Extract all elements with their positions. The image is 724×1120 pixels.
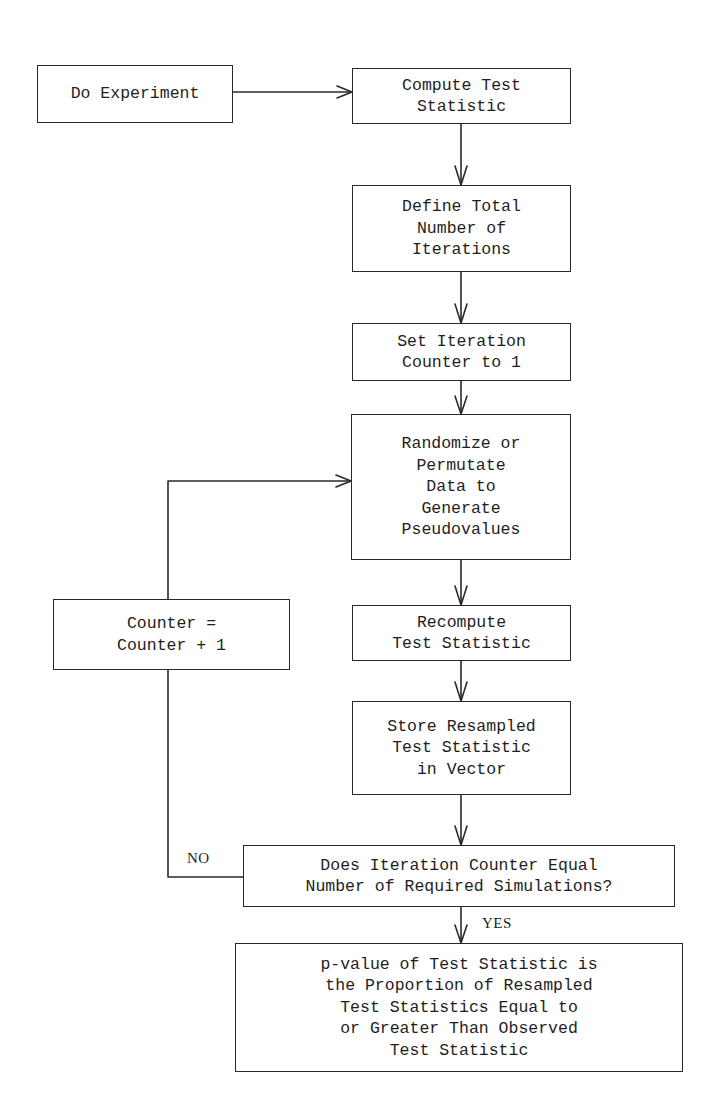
node-set-iteration-counter: Set Iteration Counter to 1 [352,323,571,381]
node-store-resampled-label: Store Resampled Test Statistic in Vector [387,716,536,781]
node-define-total-iterations-label: Define Total Number of Iterations [402,196,521,261]
node-define-total-iterations: Define Total Number of Iterations [352,185,571,272]
edge-label-no: NO [187,850,210,867]
node-set-iteration-counter-label: Set Iteration Counter to 1 [397,331,526,374]
arrow-decision-to-increment-counter [168,670,243,877]
node-p-value-label: p-value of Test Statistic is the Proport… [320,954,597,1062]
node-decision-label: Does Iteration Counter Equal Number of R… [306,855,613,898]
node-decision: Does Iteration Counter Equal Number of R… [243,845,675,907]
node-recompute-test-statistic: Recompute Test Statistic [352,605,571,661]
flowchart-canvas: Do Experiment Compute Test Statistic Def… [0,0,724,1120]
arrow-increment-counter-to-randomize [168,475,351,599]
node-store-resampled: Store Resampled Test Statistic in Vector [352,701,571,795]
arrow-compute-to-define [455,124,467,185]
node-do-experiment: Do Experiment [37,65,233,123]
arrow-do-experiment-to-compute [233,86,352,98]
arrow-define-to-set-counter [455,272,467,323]
node-do-experiment-label: Do Experiment [71,83,200,105]
node-recompute-test-statistic-label: Recompute Test Statistic [392,612,531,655]
arrow-randomize-to-recompute [455,560,467,605]
node-increment-counter-label: Counter = Counter + 1 [117,613,226,656]
arrow-decision-to-p-value [455,907,467,943]
edge-label-yes: YES [482,915,512,932]
arrow-recompute-to-store [455,661,467,701]
node-compute-test-statistic: Compute Test Statistic [352,68,571,124]
arrow-set-counter-to-randomize [455,381,467,414]
node-randomize-data-label: Randomize or Permutate Data to Generate … [402,433,521,541]
node-compute-test-statistic-label: Compute Test Statistic [402,75,521,118]
node-p-value: p-value of Test Statistic is the Proport… [235,943,683,1072]
node-increment-counter: Counter = Counter + 1 [53,599,290,670]
node-randomize-data: Randomize or Permutate Data to Generate … [351,414,571,560]
arrow-store-to-decision [455,795,467,845]
